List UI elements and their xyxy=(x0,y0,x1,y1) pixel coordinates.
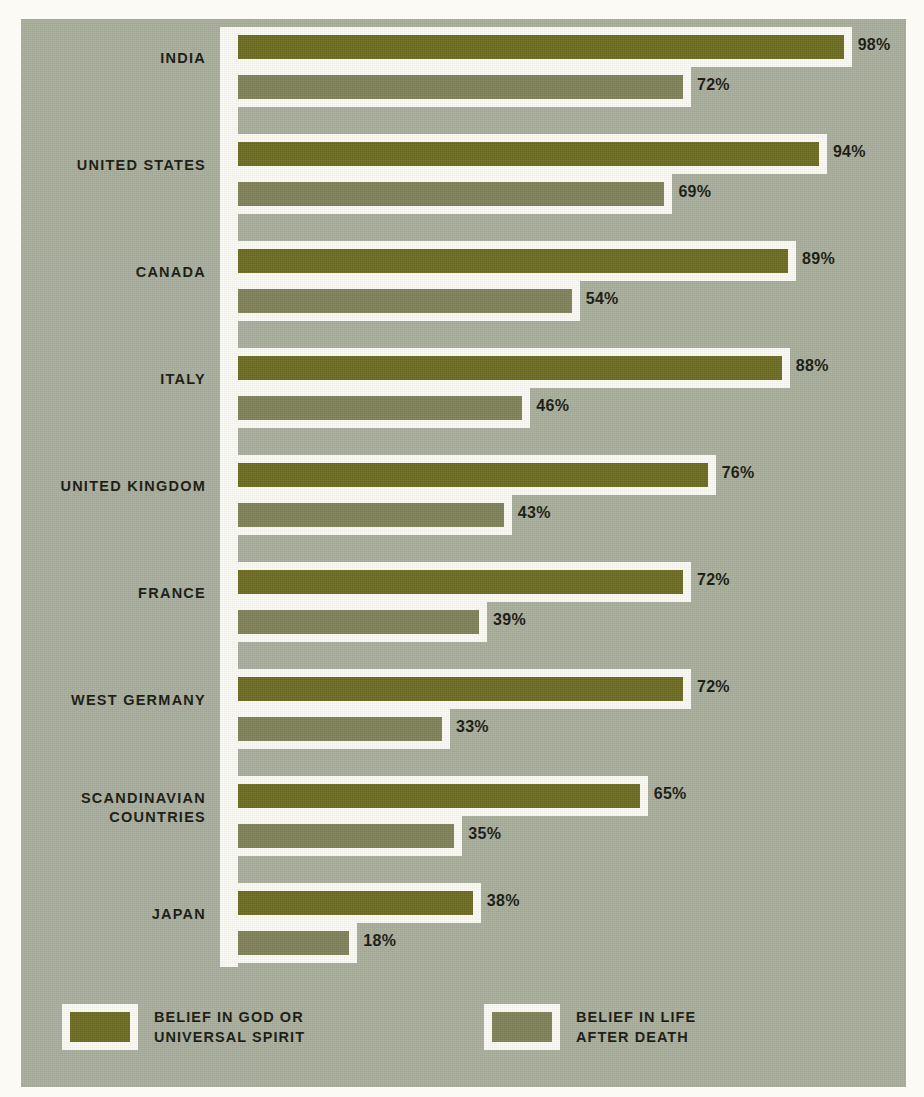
bar-value-label: 98% xyxy=(858,36,891,54)
bar-value-label: 43% xyxy=(518,504,551,522)
bar-fill xyxy=(238,463,708,487)
bar-fill xyxy=(238,182,664,206)
bar-group: WEST GERMANY72%33% xyxy=(21,669,906,776)
bar-group: CANADA89%54% xyxy=(21,241,906,348)
bar-value-label: 35% xyxy=(468,825,501,843)
bar-value-label: 38% xyxy=(487,892,520,910)
bar-fill xyxy=(238,249,788,273)
bar-value-label: 33% xyxy=(456,718,489,736)
bar-value-label: 65% xyxy=(654,785,687,803)
bar-value-label: 46% xyxy=(536,397,569,415)
bar-value-label: 39% xyxy=(493,611,526,629)
bar-secondary xyxy=(220,709,450,749)
bar-secondary xyxy=(220,816,462,856)
bar-fill xyxy=(238,891,473,915)
legend-swatch-frame xyxy=(484,1004,560,1050)
bar-value-label: 88% xyxy=(796,357,829,375)
bar-value-label: 94% xyxy=(833,143,866,161)
bar-primary xyxy=(220,883,481,923)
category-label: JAPAN xyxy=(21,905,206,924)
bar-group: INDIA98%72% xyxy=(21,27,906,134)
bar-secondary xyxy=(220,281,580,321)
bar-primary xyxy=(220,562,691,602)
bar-fill xyxy=(238,142,819,166)
category-label: SCANDINAVIANCOUNTRIES xyxy=(21,789,206,827)
bar-primary xyxy=(220,134,827,174)
legend-swatch xyxy=(70,1012,130,1042)
bar-secondary xyxy=(220,923,357,963)
poster-page: INDIA98%72%UNITED STATES94%69%CANADA89%5… xyxy=(0,0,924,1097)
bar-group: FRANCE72%39% xyxy=(21,562,906,669)
bar-fill xyxy=(238,677,683,701)
bar-primary xyxy=(220,241,796,281)
legend-item: BELIEF IN LIFE AFTER DEATH xyxy=(484,1004,696,1050)
bar-group: UNITED KINGDOM76%43% xyxy=(21,455,906,562)
legend-label: BELIEF IN LIFE AFTER DEATH xyxy=(576,1007,696,1047)
bar-fill xyxy=(238,35,844,59)
category-label: INDIA xyxy=(21,49,206,68)
bar-primary xyxy=(220,27,852,67)
bar-group: SCANDINAVIANCOUNTRIES65%35% xyxy=(21,776,906,883)
bar-fill xyxy=(238,289,572,313)
bar-fill xyxy=(238,717,442,741)
bar-value-label: 89% xyxy=(802,250,835,268)
bar-secondary xyxy=(220,602,487,642)
bar-primary xyxy=(220,669,691,709)
bar-group: ITALY88%46% xyxy=(21,348,906,455)
bar-group: JAPAN38%18% xyxy=(21,883,906,990)
bar-primary xyxy=(220,348,790,388)
bar-primary xyxy=(220,455,716,495)
legend-item: BELIEF IN GOD OR UNIVERSAL SPIRIT xyxy=(62,1004,305,1050)
bar-secondary xyxy=(220,174,672,214)
bar-fill xyxy=(238,824,454,848)
bar-secondary xyxy=(220,495,512,535)
bar-fill xyxy=(238,75,683,99)
category-label: WEST GERMANY xyxy=(21,691,206,710)
category-label: CANADA xyxy=(21,263,206,282)
chart-panel: INDIA98%72%UNITED STATES94%69%CANADA89%5… xyxy=(21,19,906,1087)
bar-group: UNITED STATES94%69% xyxy=(21,134,906,241)
bar-value-label: 69% xyxy=(678,183,711,201)
bar-fill xyxy=(238,931,349,955)
bar-value-label: 72% xyxy=(697,76,730,94)
bar-fill xyxy=(238,610,479,634)
bar-secondary xyxy=(220,67,691,107)
bar-fill xyxy=(238,396,522,420)
category-label: ITALY xyxy=(21,370,206,389)
bar-secondary xyxy=(220,388,530,428)
legend-swatch-frame xyxy=(62,1004,138,1050)
bar-fill xyxy=(238,356,782,380)
bar-value-label: 72% xyxy=(697,571,730,589)
category-label: FRANCE xyxy=(21,584,206,603)
plot-area: INDIA98%72%UNITED STATES94%69%CANADA89%5… xyxy=(21,19,906,979)
bar-fill xyxy=(238,570,683,594)
bar-primary xyxy=(220,776,648,816)
bar-value-label: 76% xyxy=(722,464,755,482)
category-label: UNITED STATES xyxy=(21,156,206,175)
legend-swatch xyxy=(492,1012,552,1042)
bar-fill xyxy=(238,503,504,527)
bar-fill xyxy=(238,784,640,808)
bar-value-label: 18% xyxy=(363,932,396,950)
bar-value-label: 72% xyxy=(697,678,730,696)
bar-value-label: 54% xyxy=(586,290,619,308)
category-label: UNITED KINGDOM xyxy=(21,477,206,496)
chart-legend: BELIEF IN GOD OR UNIVERSAL SPIRITBELIEF … xyxy=(21,1004,906,1079)
legend-label: BELIEF IN GOD OR UNIVERSAL SPIRIT xyxy=(154,1007,305,1047)
